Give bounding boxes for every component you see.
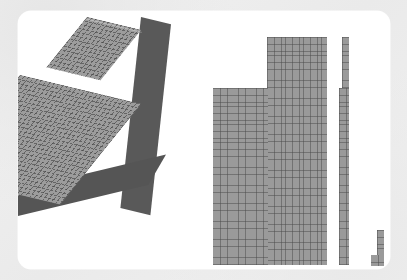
strip-lower-segment bbox=[339, 88, 349, 265]
part-3d-extruded-l-block[interactable] bbox=[18, 11, 218, 269]
mesh-scene bbox=[18, 11, 390, 269]
mesh-canvas-card[interactable] bbox=[18, 11, 390, 269]
top-face-upper-block bbox=[47, 17, 141, 80]
viewport bbox=[0, 0, 407, 280]
part-flat-l-face-mesh[interactable] bbox=[213, 37, 328, 267]
part-narrow-strip-mesh[interactable] bbox=[339, 37, 353, 267]
part-small-step-mesh[interactable] bbox=[371, 230, 387, 267]
flat-face-right-column bbox=[267, 37, 327, 265]
small-step-foot bbox=[371, 255, 384, 266]
strip-upper-segment bbox=[342, 37, 349, 88]
flat-face-left-lower-block bbox=[213, 88, 268, 265]
